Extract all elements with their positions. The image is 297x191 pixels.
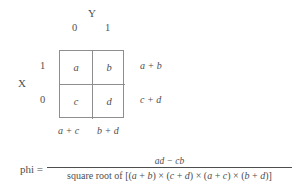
denominator-plus-4: + (250, 170, 261, 181)
column-level-0-label: 0 (72, 23, 77, 34)
formula-numerator: ad − cb (47, 156, 292, 167)
row-level-0-label: 0 (40, 95, 45, 106)
denominator-sep-3: ) × ( (227, 170, 244, 181)
denominator-sep-1: ) × ( (152, 170, 169, 181)
formula-denominator: square root of [(a + b) × (c + d) × (a +… (47, 168, 292, 181)
table-cell-b: b (93, 51, 125, 84)
denominator-tail: )] (265, 170, 272, 181)
denominator-plus-1: + (137, 170, 148, 181)
phi-label: phi = (20, 161, 47, 175)
column-sum-left: a + c (58, 126, 79, 136)
row-level-1-label: 1 (40, 61, 45, 72)
table-cell-d: d (93, 85, 125, 118)
row-sum-bottom: c + d (140, 95, 161, 105)
column-level-1-label: 1 (105, 23, 110, 34)
row-sum-top: a + b (140, 61, 162, 71)
denominator-sep-2: ) × ( (190, 170, 207, 181)
column-sum-right: b + d (97, 126, 119, 136)
contingency-table: a b c d (59, 50, 124, 118)
phi-formula: phi = ad − cb square root of [(a + b) × … (20, 150, 292, 186)
row-variable-label: X (18, 78, 26, 89)
phi-coefficient-figure: Y 0 1 X 1 0 a b c d a + b c + d a + c b … (0, 0, 297, 191)
denominator-plus-3: + (212, 170, 223, 181)
formula-fraction: ad − cb square root of [(a + b) × (c + d… (47, 156, 292, 181)
denominator-lead: square root of [( (67, 170, 132, 181)
table-cell-c: c (60, 85, 92, 118)
column-variable-label: Y (88, 8, 96, 19)
table-cell-a: a (60, 51, 92, 84)
denominator-plus-2: + (174, 170, 185, 181)
